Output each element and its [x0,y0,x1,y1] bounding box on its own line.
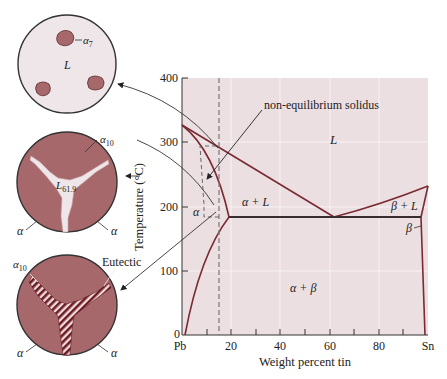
micrograph-middle: L61.9 α10 α α [17,132,118,238]
region-liquid: L [329,132,337,147]
alpha-10-bottom-label: α10 [13,258,27,273]
x-tick-40: 40 [274,339,286,353]
x-label-pb: Pb [174,339,187,353]
micrograph-top: α7 L [18,15,116,113]
x-tick-20: 20 [225,339,237,353]
eutectic-label: Eutectic [102,255,141,269]
region-beta: β [405,221,412,235]
micrograph-bottom: α10 Eutectic α α [13,255,141,360]
alpha-right-bottom-label: α [111,346,118,360]
alpha-left-bottom-label: α [17,346,24,360]
y-tick-300: 300 [160,135,178,149]
alpha-particle [88,76,105,90]
alpha-right-label: α [111,224,118,238]
x-axis-title: Weight percent tin [259,355,352,369]
region-beta-plus-liquid: β + L [390,199,418,213]
x-tick-80: 80 [373,339,385,353]
alpha-left-label: α [17,224,24,238]
x-label-sn: Sn [422,339,435,353]
phase-diagram-figure: 400 300 200 100 0 Pb 20 40 60 80 Sn Weig… [0,0,447,379]
x-tick-60: 60 [324,339,336,353]
region-alpha: α [193,205,200,219]
region-alpha-plus-liquid: α + L [242,195,269,209]
alpha-particle [57,30,74,45]
liquid-label: L [63,58,71,72]
y-tick-100: 100 [160,264,178,278]
region-alpha-plus-beta: α + β [290,281,316,295]
y-tick-400: 400 [160,71,178,85]
y-tick-200: 200 [160,200,178,214]
annotation-non-equilibrium-solidus: non-equilibrium solidus [264,98,379,112]
alpha-particle [36,82,51,96]
